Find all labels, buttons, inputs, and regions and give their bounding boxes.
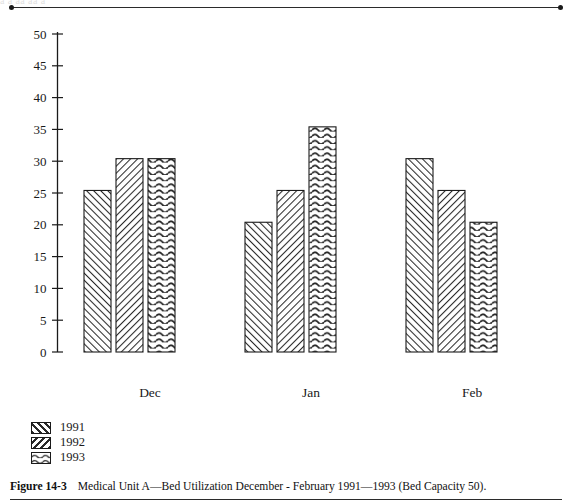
legend: 1991 1992 1993 — [31, 420, 151, 465]
y-axis-tick-label: 40 — [34, 90, 47, 105]
x-axis-category-labels: Dec Jan Feb — [0, 385, 572, 407]
figure-number: Figure 14-3 — [10, 480, 67, 493]
legend-swatch-1993 — [31, 452, 51, 464]
top-divider-rule — [10, 6, 562, 9]
x-axis-label-jan: Jan — [271, 385, 351, 401]
legend-label-1992: 1992 — [60, 436, 85, 449]
top-rule-line — [10, 7, 562, 8]
y-axis-tick-label: 20 — [34, 217, 47, 232]
legend-swatch-1992 — [31, 437, 51, 449]
y-axis-tick-label: 10 — [34, 281, 47, 296]
y-axis-tick-label: 35 — [34, 122, 47, 137]
legend-item-1993: 1993 — [31, 450, 151, 465]
figure-caption: Figure 14-3Medical Unit A—Bed Utilizatio… — [10, 480, 566, 494]
figure-caption-text: Medical Unit A—Bed Utilization December … — [78, 480, 487, 493]
y-axis-tick-label: 15 — [34, 249, 47, 264]
legend-item-1992: 1992 — [31, 435, 151, 450]
bar-dec-1993[interactable] — [148, 159, 175, 352]
top-rule-dot-left — [9, 5, 14, 10]
bar-jan-1993[interactable] — [309, 127, 336, 352]
legend-item-1991: 1991 — [31, 420, 151, 435]
x-axis-label-dec: Dec — [110, 385, 190, 401]
legend-swatch-1991 — [31, 422, 51, 434]
y-axis-tick-label: 30 — [34, 154, 47, 169]
y-axis-tick-label: 45 — [34, 58, 47, 73]
top-rule-dot-right — [558, 5, 563, 10]
bar-chart-canvas: 05101520253035404550 — [0, 20, 572, 380]
y-axis-tick-label: 0 — [40, 345, 47, 360]
bar-dec-1992[interactable] — [116, 159, 143, 352]
bar-chart: 05101520253035404550 — [0, 20, 572, 380]
bar-feb-1991[interactable] — [406, 159, 433, 352]
bottom-divider-rule — [10, 499, 562, 500]
bar-dec-1991[interactable] — [84, 190, 111, 352]
bar-jan-1992[interactable] — [277, 190, 304, 352]
bar-feb-1992[interactable] — [438, 190, 465, 352]
legend-label-1991: 1991 — [60, 421, 85, 434]
bar-feb-1993[interactable] — [470, 222, 497, 352]
x-axis-label-feb: Feb — [432, 385, 512, 401]
y-axis-tick-label: 50 — [34, 27, 47, 42]
bar-jan-1991[interactable] — [245, 222, 272, 352]
y-axis-tick-label: 5 — [40, 313, 47, 328]
y-axis-tick-label: 25 — [34, 186, 47, 201]
legend-label-1993: 1993 — [60, 451, 85, 464]
chart-geometry: 05101520253035404550 — [34, 27, 521, 360]
